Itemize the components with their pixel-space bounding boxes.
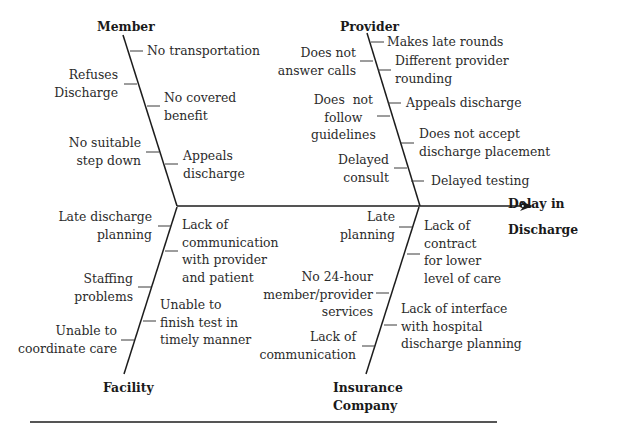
cause-provider-does-not-accept-discharge-placement: Does not accept discharge placement (419, 125, 550, 160)
effect-label: Delay in Discharge (508, 191, 598, 243)
cause-insurance-lack-of-communication: Lack of communication (259, 328, 356, 363)
cause-member-refuses-discharge: Refuses Discharge (54, 66, 118, 101)
cause-member-no-transportation: No transportation (147, 42, 260, 60)
cause-facility-unable-to-finish-test: Unable to finish test in timely manner (160, 296, 251, 349)
cause-provider-delayed-testing: Delayed testing (431, 172, 529, 190)
category-member: Member (97, 18, 155, 36)
cause-provider-makes-late-rounds: Makes late rounds (387, 33, 503, 51)
cause-member-no-covered-benefit: No covered benefit (164, 89, 236, 124)
cause-facility-late-discharge-planning: Late discharge planning (58, 208, 152, 243)
cause-provider-does-not-follow-guidelines: Does not follow guidelines (311, 91, 376, 144)
cause-facility-staffing-problems: Staffing problems (74, 270, 133, 305)
cause-insurance-late-planning: Late planning (340, 208, 395, 243)
fishbone-diagram: Member Provider Facility Insurance Compa… (0, 0, 618, 446)
cause-provider-delayed-consult: Delayed consult (338, 151, 389, 186)
cause-insurance-lack-of-contract: Lack of contract for lower level of care (424, 217, 501, 287)
cause-member-appeals-discharge: Appeals discharge (183, 147, 245, 182)
cause-member-no-suitable-step-down: No suitable step down (69, 134, 141, 169)
cause-insurance-no-24-hour-services: No 24-hour member/provider services (263, 268, 373, 321)
category-insurance-company: Insurance Company (333, 379, 403, 414)
cause-insurance-lack-of-interface: Lack of interface with hospital discharg… (401, 300, 522, 353)
category-facility: Facility (103, 379, 154, 397)
cause-facility-unable-to-coordinate-care: Unable to coordinate care (18, 322, 117, 357)
cause-provider-does-not-answer-calls: Does not answer calls (278, 44, 356, 79)
cause-provider-different-provider-rounding: Different provider rounding (395, 52, 509, 87)
cause-provider-appeals-discharge: Appeals discharge (406, 94, 522, 112)
